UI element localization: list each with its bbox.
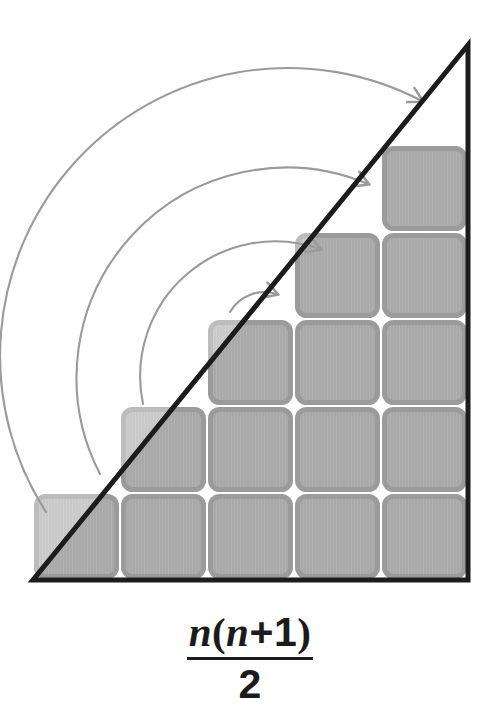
grid-square xyxy=(124,497,204,577)
grid-square xyxy=(298,497,378,577)
grid-square xyxy=(298,236,378,316)
grid-square xyxy=(385,497,465,577)
grid-square xyxy=(385,149,465,229)
grid-square xyxy=(298,323,378,403)
figure-stage: n(n+1) 2 xyxy=(0,0,500,718)
triangular-number-figure xyxy=(0,0,500,718)
grid-square xyxy=(211,410,291,490)
grid-square xyxy=(211,497,291,577)
grid-square xyxy=(385,236,465,316)
grid-square xyxy=(298,410,378,490)
grid-square xyxy=(385,410,465,490)
grid-square xyxy=(385,323,465,403)
